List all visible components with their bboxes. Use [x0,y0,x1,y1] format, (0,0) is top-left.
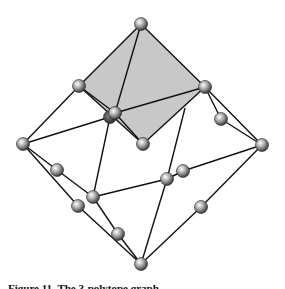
node-inner-right-a [161,173,174,186]
edge-center-back-inner-left [93,117,110,197]
shaded-face [79,24,205,144]
node-lower-left-mid [112,228,125,241]
edge-diamond-right-far-right [205,87,262,145]
node-diamond-right [199,81,212,94]
node-left-mid-b [72,200,85,213]
shaded-face-layer [79,24,205,144]
edge-right-upper-mid-far-right [221,119,262,145]
edge-far-right-right-lower-mid [201,145,262,207]
edge-far-left-left-mid-b [23,144,78,206]
node-far-right [256,139,269,152]
figure-caption: Figure 11. The 3-polytope graph ... [8,281,283,289]
node-bottom [135,258,148,271]
node-right-lower-mid [195,201,208,214]
edge-inner-left-inner-right-a [93,179,167,197]
node-far-left [17,138,30,151]
node-left-mid-a [51,164,64,177]
polytope-diagram [0,0,285,280]
node-diamond-left [73,80,86,93]
node-inner-right-b [177,165,190,178]
edge-left-mid-b-bottom [78,206,141,264]
node-right-upper-mid [215,113,228,126]
node-inner-left [87,191,100,204]
node-top [135,18,148,31]
node-diamond-bottom [137,138,150,151]
node-center-front [109,107,122,120]
